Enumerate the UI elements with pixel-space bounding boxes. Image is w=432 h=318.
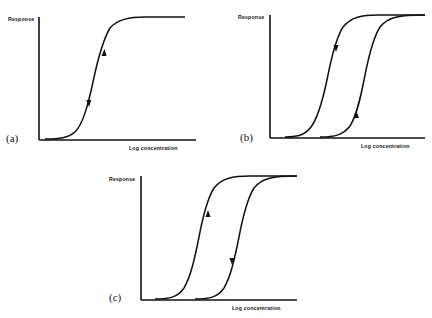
panel-label: (a) — [6, 132, 19, 145]
arrow-up-icon — [102, 49, 107, 56]
x-axis-label: Log concentration — [232, 305, 281, 311]
left-sigmoid-curve — [285, 15, 425, 137]
panel-a: Response Log concentration (a) — [6, 16, 196, 151]
right-sigmoid-curve — [320, 15, 425, 137]
left-sigmoid-curve — [155, 176, 297, 299]
y-axis-label: Response — [8, 16, 34, 22]
panel-b: Response Log concentration (b) — [238, 14, 425, 149]
figure: Response Log concentration (a) Response … — [0, 0, 432, 318]
y-axis-label: Response — [238, 14, 264, 20]
x-axis-label: Log concentration — [129, 145, 178, 151]
panel-label: (b) — [240, 131, 253, 144]
panel-c: Response Log concentration (c) — [109, 176, 297, 311]
y-axis-label: Response — [109, 176, 135, 182]
arrow-up-icon — [206, 210, 211, 217]
x-axis-label: Log concentration — [361, 143, 410, 149]
sigmoid-curve — [45, 17, 185, 139]
panel-label: (c) — [109, 291, 122, 304]
